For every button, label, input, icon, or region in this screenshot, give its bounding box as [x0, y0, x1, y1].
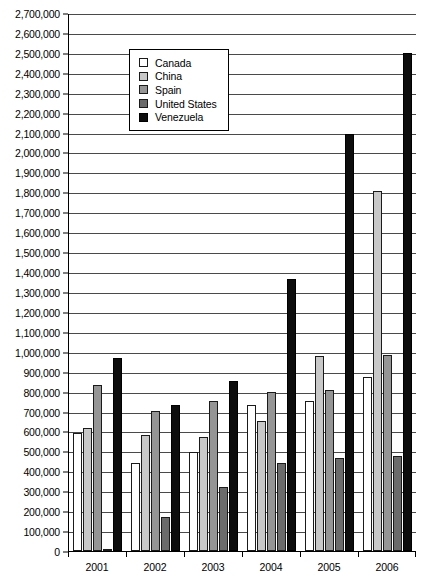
x-axis-category: 2005 — [300, 552, 358, 587]
bar — [219, 487, 228, 551]
x-axis-tick-mark — [68, 552, 69, 557]
bar — [247, 405, 256, 551]
y-axis-tick-label: 400,000 — [23, 467, 60, 478]
x-axis-category: 2003 — [184, 552, 242, 587]
legend-label: Venezuela — [155, 111, 203, 123]
x-axis-tick-label: 2002 — [126, 561, 184, 573]
x-axis-category: 2004 — [242, 552, 300, 587]
bar — [131, 463, 140, 551]
bar — [151, 411, 160, 551]
y-axis-tick-label: 1,700,000 — [15, 208, 60, 219]
y-axis-tick-label: 1,400,000 — [15, 268, 60, 279]
x-axis-category: 2001 — [68, 552, 126, 587]
bar — [189, 452, 198, 551]
y-axis-tick-label: 1,500,000 — [15, 248, 60, 259]
bar — [103, 549, 112, 551]
x-axis-tick-mark — [358, 552, 359, 557]
y-axis-tick-label: 1,600,000 — [15, 228, 60, 239]
y-axis-tick-label: 300,000 — [23, 487, 60, 498]
bar-group — [69, 14, 127, 551]
y-axis-tick-label: 2,500,000 — [15, 49, 60, 60]
legend-label: China — [155, 70, 182, 82]
bar — [267, 392, 276, 551]
y-axis-tick-label: 2,600,000 — [15, 29, 60, 40]
y-axis-tick-label: 0 — [54, 547, 60, 558]
legend-item: Canada — [139, 56, 217, 70]
legend-item: Spain — [139, 83, 217, 97]
bar-group — [358, 14, 416, 551]
y-axis-tick-label: 2,400,000 — [15, 69, 60, 80]
bar — [373, 191, 382, 551]
y-axis-tick-label: 200,000 — [23, 507, 60, 518]
x-axis-tick-label: 2003 — [184, 561, 242, 573]
bar — [229, 381, 238, 551]
bar — [199, 437, 208, 551]
bar — [345, 134, 354, 551]
bar — [93, 385, 102, 551]
x-axis-tick-mark — [415, 552, 416, 557]
legend-label: United States — [155, 98, 217, 110]
x-axis-tick-mark — [242, 552, 243, 557]
y-axis-tick-label: 600,000 — [23, 427, 60, 438]
x-axis-labels: 200120022003200420052006 — [68, 552, 416, 587]
legend-swatch-icon — [139, 85, 148, 94]
y-axis-tick-label: 1,200,000 — [15, 308, 60, 319]
y-axis-tick-label: 900,000 — [23, 367, 60, 378]
bar — [257, 421, 266, 551]
x-axis-tick-label: 2001 — [68, 561, 126, 573]
x-axis-tick-label: 2006 — [358, 561, 416, 573]
legend-item: China — [139, 70, 217, 84]
y-axis-tick-label: 700,000 — [23, 407, 60, 418]
bar — [73, 433, 82, 551]
bar — [325, 390, 334, 551]
x-axis-tick-mark — [184, 552, 185, 557]
bar — [305, 401, 314, 551]
x-axis: 200120022003200420052006 — [68, 552, 416, 587]
legend-label: Spain — [155, 84, 181, 96]
legend-swatch-icon — [139, 113, 148, 122]
legend-swatch-icon — [139, 99, 148, 108]
bar — [315, 356, 324, 551]
legend-item: United States — [139, 97, 217, 111]
x-axis-tick-label: 2004 — [242, 561, 300, 573]
bar — [403, 53, 412, 551]
y-axis-tick-label: 2,000,000 — [15, 148, 60, 159]
legend-swatch-icon — [139, 58, 148, 67]
x-axis-tick-label: 2005 — [300, 561, 358, 573]
bar — [383, 355, 392, 551]
y-axis-tick-label: 2,700,000 — [15, 9, 60, 20]
y-axis-tick-label: 1,000,000 — [15, 347, 60, 358]
legend-label: Canada — [155, 57, 191, 69]
bar-group — [242, 14, 300, 551]
legend-item: Venezuela — [139, 110, 217, 124]
legend: CanadaChinaSpainUnited StatesVenezuela — [129, 49, 229, 131]
x-axis-category: 2006 — [358, 552, 416, 587]
bar — [393, 456, 402, 551]
bar — [277, 463, 286, 551]
x-axis-category: 2002 — [126, 552, 184, 587]
bar — [363, 377, 372, 551]
y-axis-tick-label: 100,000 — [23, 527, 60, 538]
y-axis-tick-label: 1,100,000 — [15, 328, 60, 339]
bar — [141, 435, 150, 551]
bar-groups — [69, 14, 416, 551]
y-axis-tick-label: 800,000 — [23, 387, 60, 398]
bar-group — [300, 14, 358, 551]
y-axis-tick-label: 2,300,000 — [15, 88, 60, 99]
y-axis-tick-label: 2,200,000 — [15, 108, 60, 119]
bar — [161, 517, 170, 551]
bar — [209, 401, 218, 551]
legend-swatch-icon — [139, 72, 148, 81]
bar-chart: 2,700,0002,600,0002,500,0002,400,0002,30… — [0, 0, 431, 587]
y-axis-tick-label: 500,000 — [23, 447, 60, 458]
y-axis-tick-label: 2,100,000 — [15, 128, 60, 139]
x-axis-tick-mark — [300, 552, 301, 557]
bar — [287, 279, 296, 551]
plot-area — [68, 14, 416, 552]
y-axis: 2,700,0002,600,0002,500,0002,400,0002,30… — [0, 0, 68, 552]
y-axis-tick-label: 1,800,000 — [15, 188, 60, 199]
bar — [113, 358, 122, 551]
y-axis-tick-label: 1,900,000 — [15, 168, 60, 179]
bar — [83, 428, 92, 551]
bar — [335, 458, 344, 551]
